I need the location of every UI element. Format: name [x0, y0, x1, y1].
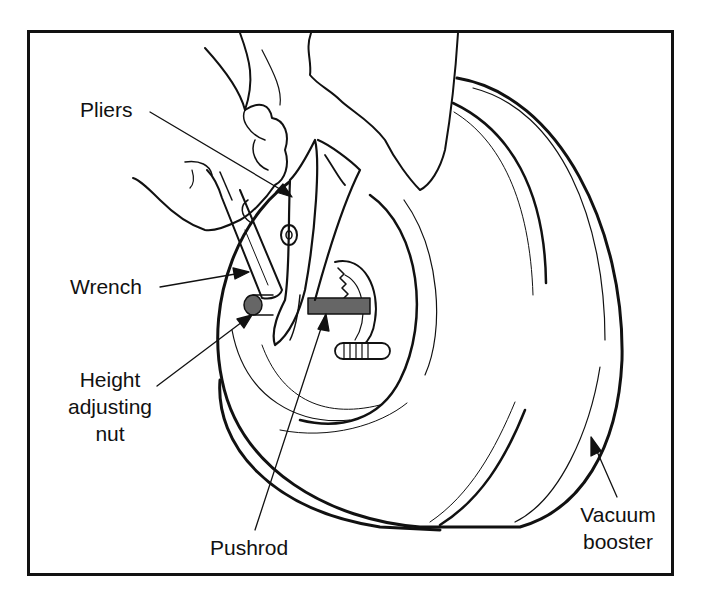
label-wrench: Wrench	[70, 273, 142, 300]
label-vacuum-booster: Vacuum booster	[568, 501, 668, 555]
wrench-arrowhead	[233, 268, 249, 279]
label-adjusting-line: adjusting	[58, 393, 162, 420]
pushrod-arrowhead	[318, 314, 329, 331]
label-vacuum-line: Vacuum	[568, 501, 668, 528]
callout-leaders	[150, 112, 617, 530]
label-pliers: Pliers	[80, 96, 133, 123]
nut-arrowhead	[237, 315, 252, 328]
vacuum-booster-drawing	[218, 78, 622, 530]
nut-leader-line	[157, 316, 250, 386]
threaded-stud	[335, 343, 390, 359]
label-height-adjusting-nut: Height adjusting nut	[58, 366, 162, 447]
pushrod-drawing	[308, 298, 370, 314]
label-pushrod: Pushrod	[210, 534, 288, 561]
label-nut-line: nut	[58, 420, 162, 447]
label-height-line: Height	[58, 366, 162, 393]
label-booster-line: booster	[568, 528, 668, 555]
pliers-leader-line	[150, 112, 290, 195]
booster-arrowhead	[591, 437, 601, 456]
